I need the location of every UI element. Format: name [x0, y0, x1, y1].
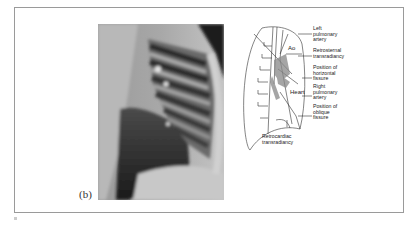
callout-oblique-fissure: Position of oblique fissure — [313, 104, 337, 121]
page-mark — [14, 217, 17, 220]
xray-image — [98, 24, 224, 200]
callout-retrosternal-transradiancy: Retrosternal transradiancy — [313, 48, 344, 59]
callout-left-pulmonary-artery: Left pulmonary artery — [313, 26, 337, 43]
lateral-chest-diagram: Ao Heart Left pulmonary artery Retroster… — [240, 24, 360, 154]
panel-label: (b) — [79, 188, 92, 200]
heart-label: Heart — [290, 90, 305, 96]
callout-right-pulmonary-artery: Right pulmonary artery — [313, 84, 337, 101]
callout-retrocardiac-transradiancy: Retrocardiac transradiancy — [262, 134, 293, 145]
aorta-label: Ao — [288, 46, 295, 52]
callout-horizontal-fissure: Position of horizontal fissure — [313, 65, 337, 82]
lateral-chest-xray — [98, 24, 224, 200]
